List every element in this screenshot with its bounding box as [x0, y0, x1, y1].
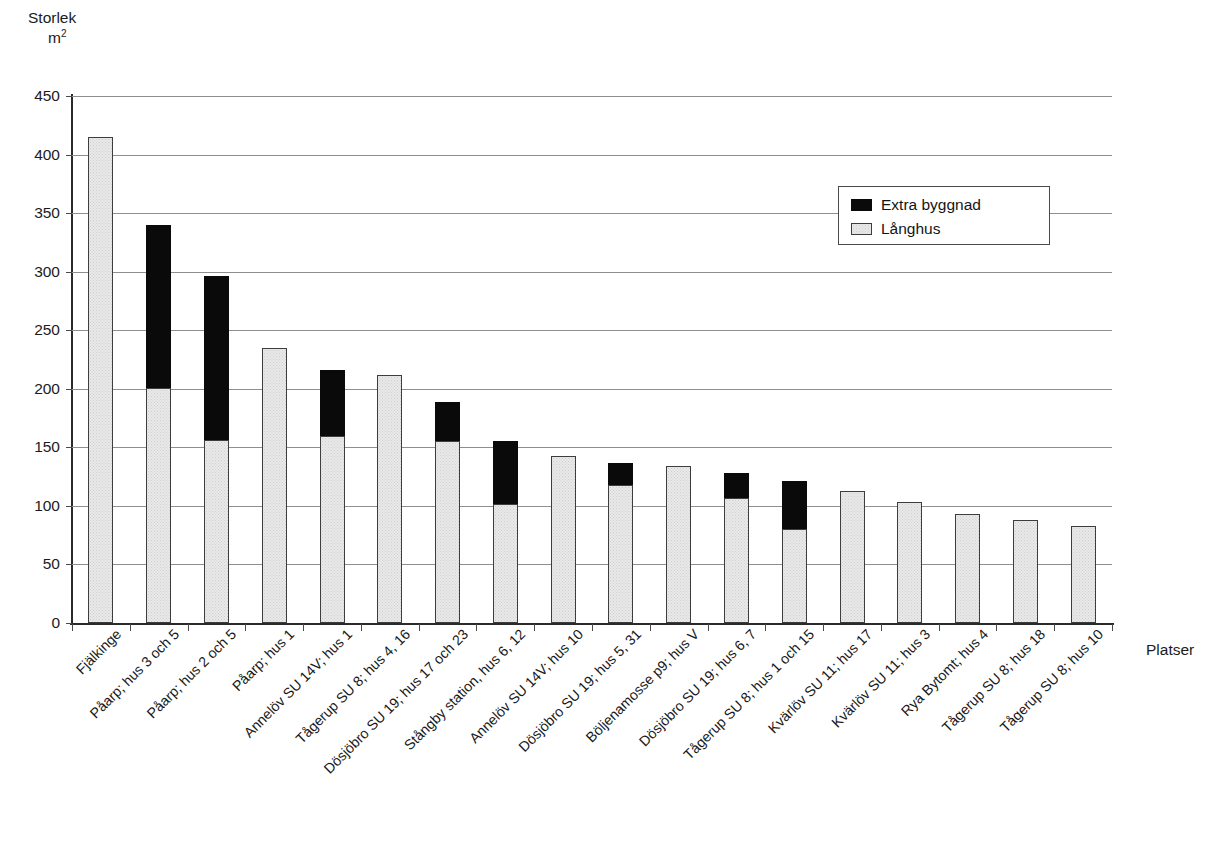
bar-segment-langhus [897, 502, 922, 623]
legend-item[interactable]: Extra byggnad [851, 194, 1049, 216]
bar-group[interactable] [724, 473, 749, 623]
bar-segment-langhus [377, 375, 402, 623]
bar-group[interactable] [551, 456, 576, 623]
y-axis-tick-label: 350 [34, 204, 60, 222]
bar-segment-langhus [782, 529, 807, 623]
bar-segment-langhus [551, 456, 576, 623]
bar-group[interactable] [435, 402, 460, 623]
y-axis-tick-label: 150 [34, 438, 60, 456]
gridline [72, 96, 1112, 97]
y-axis-unit-text: m [48, 29, 61, 46]
x-axis-title: Platser [1146, 641, 1194, 659]
bar-group[interactable] [897, 502, 922, 623]
y-axis-tick-mark [66, 389, 72, 390]
bar-segment-extra-byggnad [146, 225, 171, 388]
bar-group[interactable] [840, 491, 865, 623]
y-axis-tick-mark [66, 213, 72, 214]
y-axis-tick-label: 450 [34, 87, 60, 105]
bar-segment-extra-byggnad [204, 276, 229, 440]
x-axis-tick-label-text: Tågerup SU 8; hus 18 [940, 627, 1048, 735]
bar-segment-langhus [493, 504, 518, 623]
bar-group[interactable] [955, 514, 980, 623]
y-axis-tick-label: 100 [34, 497, 60, 515]
bar-segment-langhus [840, 491, 865, 623]
y-axis-title-text: Storlek [28, 9, 76, 26]
x-axis-tick-label-text: Tågerup SU 8; hus 10 [998, 627, 1106, 735]
bar-group[interactable] [88, 137, 113, 623]
bar-segment-extra-byggnad [435, 402, 460, 442]
x-axis-tick-label-text: Stångby station, hus 6, 12 [402, 627, 528, 753]
chart-figure: Storlek m2 050100150200250300350400450 E… [0, 0, 1230, 842]
bar-segment-langhus [146, 388, 171, 623]
legend-item-label: Extra byggnad [881, 196, 981, 214]
bar-segment-langhus [955, 514, 980, 623]
bar-segment-extra-byggnad [782, 481, 807, 529]
bar-segment-langhus [608, 485, 633, 623]
bar-segment-langhus [1071, 526, 1096, 623]
x-axis-tick-label-text: Kvärlöv SU 11; hus 3 [829, 627, 933, 731]
legend-item-label: Långhus [881, 220, 940, 238]
x-axis-tick-label-text: Böljenamosse p9; hus V [583, 627, 701, 745]
bar-segment-langhus [204, 440, 229, 623]
x-axis-tick-label: Kvärlöv SU 11; hus 17 [767, 628, 876, 737]
x-axis-tick-label-text: Annelöv SU 14V; hus 1 [241, 627, 354, 740]
bar-group[interactable] [1013, 520, 1038, 623]
y-axis-unit: m2 [48, 28, 76, 48]
x-axis-tick-label: Tågerup SU 8; hus 18 [941, 628, 1049, 736]
bar-segment-langhus [435, 441, 460, 623]
y-axis-title: Storlek m2 [28, 8, 76, 48]
bar-segment-langhus [320, 436, 345, 623]
bar-segment-langhus [724, 498, 749, 623]
gridline [72, 272, 1112, 273]
bar-segment-langhus [1013, 520, 1038, 623]
bar-group[interactable] [204, 276, 229, 623]
bar-group[interactable] [146, 225, 171, 623]
chart-legend: Extra byggnadLånghus [838, 186, 1050, 245]
y-axis-unit-exponent: 2 [61, 28, 67, 39]
bar-segment-extra-byggnad [493, 441, 518, 503]
x-axis-tick-label: Fjälkinge [75, 628, 125, 678]
x-axis-tick-label: Annelöv SU 14V; hus 1 [243, 628, 356, 741]
bar-group[interactable] [320, 370, 345, 623]
bar-segment-extra-byggnad [320, 370, 345, 436]
x-axis-tick-label-text: Tågerup SU 8; hus 4, 16 [293, 627, 412, 746]
y-axis-tick-label: 50 [43, 555, 60, 573]
bar-segment-extra-byggnad [608, 463, 633, 485]
legend-item[interactable]: Långhus [851, 218, 1049, 240]
bar-group[interactable] [1071, 526, 1096, 623]
bar-group[interactable] [262, 348, 287, 623]
gridline [72, 155, 1112, 156]
y-axis-tick-label: 200 [34, 380, 60, 398]
legend-swatch-icon [851, 223, 872, 235]
x-axis-tick-label: Tågerup SU 8; hus 4, 16 [294, 628, 413, 747]
bar-segment-extra-byggnad [724, 473, 749, 498]
y-axis-tick-label: 300 [34, 263, 60, 281]
x-axis-tick-label-text: Fjälkinge [73, 627, 123, 677]
bar-segment-langhus [262, 348, 287, 623]
y-axis-tick-mark [66, 330, 72, 331]
bar-group[interactable] [666, 466, 691, 623]
bar-segment-langhus [666, 466, 691, 623]
x-axis-tick-label: Tågerup SU 8; hus 10 [999, 628, 1107, 736]
bar-group[interactable] [608, 463, 633, 623]
x-axis-tick-label-text: Dösjöbro SU 19; hus 6, 7 [637, 627, 759, 749]
legend-swatch-icon [851, 199, 872, 211]
bar-group[interactable] [377, 375, 402, 623]
x-axis-tick-labels: FjälkingePåarp; hus 3 och 5Påarp; hus 2 … [72, 628, 1132, 838]
bar-group[interactable] [493, 441, 518, 623]
y-axis-line [71, 94, 73, 624]
bar-group[interactable] [782, 481, 807, 623]
y-axis-tick-mark [66, 155, 72, 156]
bar-segment-langhus [88, 137, 113, 623]
y-axis-tick-mark [66, 96, 72, 97]
plot-area: 050100150200250300350400450 [72, 96, 1112, 623]
y-axis-tick-label: 250 [34, 321, 60, 339]
y-axis-tick-mark [66, 272, 72, 273]
y-axis-tick-label: 400 [34, 146, 60, 164]
y-axis-tick-mark [66, 506, 72, 507]
y-axis-tick-mark [66, 564, 72, 565]
y-axis-tick-mark [66, 447, 72, 448]
x-axis-tick-label-text: Kvärlöv SU 11; hus 17 [766, 627, 875, 736]
y-axis-tick-label: 0 [51, 614, 60, 632]
x-axis-tick-label-text: Annelöv SU 14V; hus 10 [467, 627, 586, 746]
